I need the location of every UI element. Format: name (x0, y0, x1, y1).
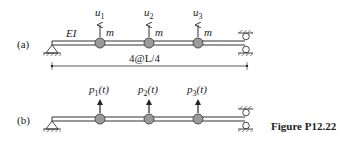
stiffness-label: EI (66, 28, 76, 39)
dof-label-2: u2 (144, 7, 154, 21)
figure-caption: Figure P12.22 (271, 120, 336, 132)
force-1-icon (95, 99, 105, 124)
force-label-3: p3(t) (187, 84, 207, 98)
part-b-label: (b) (17, 115, 30, 126)
mass-label-1: m (106, 27, 114, 38)
mass-3-icon (193, 25, 203, 48)
force-2-icon (144, 99, 154, 124)
guided-roller-support-icon (238, 106, 253, 132)
pin-support-icon (43, 121, 61, 132)
force-label-2: p2(t) (138, 84, 158, 98)
force-label-1: p1(t) (89, 84, 109, 98)
guided-roller-support-icon (238, 30, 253, 56)
mass-1-icon (95, 25, 105, 48)
mass-2-icon (144, 25, 154, 48)
dof-label-3: u3 (193, 7, 203, 21)
dimension-label: 4@L/4 (129, 53, 160, 64)
force-3-icon (193, 99, 203, 124)
pin-support-icon (43, 45, 61, 56)
mass-label-3: m (204, 27, 212, 38)
part-a-label: (a) (17, 39, 29, 50)
dof-label-1: u1 (95, 7, 105, 21)
mass-label-2: m (155, 27, 163, 38)
